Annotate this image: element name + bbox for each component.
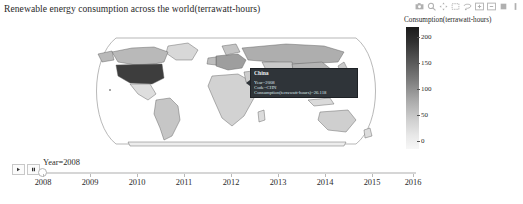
colorbar-tick-100: 100	[421, 85, 432, 93]
zoom-out-icon[interactable]	[487, 2, 496, 11]
slider-step-2008[interactable]: 2008	[35, 178, 52, 187]
slider-step-2013[interactable]: 2013	[270, 178, 287, 187]
colorbar-tick-150: 150	[421, 59, 432, 67]
colorbar-tick-200: 200	[421, 33, 432, 41]
lasso-select-icon[interactable]	[463, 2, 472, 11]
slider-step-2014[interactable]: 2014	[317, 178, 334, 187]
slider-step-2011[interactable]: 2011	[176, 178, 192, 187]
slider-step-2016[interactable]: 2016	[405, 178, 422, 187]
zoom-icon[interactable]	[427, 2, 436, 11]
slider-step-2012[interactable]: 2012	[223, 178, 240, 187]
reset-axes-icon[interactable]	[511, 2, 520, 11]
colorbar-legend: Consumption(terrawatt-hours) 200 150 100…	[404, 16, 522, 149]
animation-slider[interactable]: Year=2008 2008 2009 2010 2011 2012 2013 …	[10, 158, 420, 202]
tooltip-value: Consumption(terrawatt-hours)=26.118	[254, 90, 354, 95]
page-title: Renewable energy consumption across the …	[4, 3, 260, 14]
hover-tooltip: China Year=2008 Code=CHN Consumption(ter…	[250, 68, 358, 98]
autoscale-icon[interactable]	[499, 2, 508, 11]
box-select-icon[interactable]	[451, 2, 460, 11]
colorbar-tick-0: 0	[421, 137, 425, 145]
plotly-choropleth-figure: Renewable energy consumption across the …	[0, 0, 523, 204]
colorbar-tick-50: 50	[421, 111, 428, 119]
map-dot	[109, 89, 111, 91]
plotly-modebar[interactable]	[415, 1, 520, 12]
slider-step-2009[interactable]: 2009	[82, 178, 99, 187]
slider-current-label: Year=2008	[43, 158, 80, 167]
play-button[interactable]	[12, 164, 25, 175]
slider-step-2010[interactable]: 2010	[129, 178, 146, 187]
colorbar-gradient	[406, 27, 419, 149]
colorbar: 200 150 100 50 0	[404, 27, 516, 149]
tooltip-title: China	[254, 70, 354, 80]
play-controls[interactable]	[12, 164, 40, 175]
slider-track[interactable]	[42, 172, 416, 174]
pan-icon[interactable]	[439, 2, 448, 11]
slider-step-2015[interactable]: 2015	[364, 178, 381, 187]
camera-icon[interactable]	[415, 2, 424, 11]
zoom-in-icon[interactable]	[475, 2, 484, 11]
legend-title: Consumption(terrawatt-hours)	[404, 16, 522, 24]
tooltip-pointer	[246, 80, 250, 86]
